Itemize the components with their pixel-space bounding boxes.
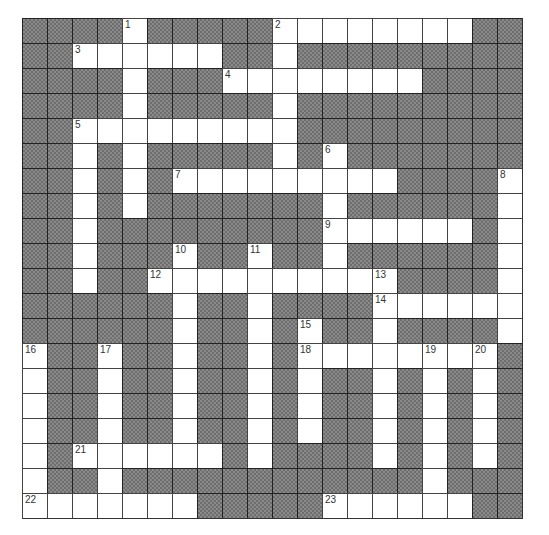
crossword-cell[interactable] — [322, 193, 347, 218]
crossword-cell[interactable] — [322, 18, 347, 43]
crossword-cell[interactable] — [122, 493, 147, 518]
crossword-cell[interactable] — [372, 368, 397, 393]
crossword-cell[interactable] — [147, 43, 172, 68]
crossword-cell[interactable] — [347, 168, 372, 193]
crossword-cell[interactable] — [172, 118, 197, 143]
crossword-cell[interactable] — [272, 93, 297, 118]
crossword-cell[interactable] — [247, 393, 272, 418]
crossword-cell[interactable]: 3 — [72, 43, 97, 68]
crossword-cell[interactable] — [472, 443, 497, 468]
crossword-cell[interactable] — [22, 468, 47, 493]
crossword-cell[interactable] — [147, 493, 172, 518]
crossword-cell[interactable] — [347, 493, 372, 518]
crossword-cell[interactable] — [147, 118, 172, 143]
crossword-cell[interactable] — [72, 168, 97, 193]
crossword-cell[interactable] — [97, 368, 122, 393]
crossword-cell[interactable] — [397, 68, 422, 93]
crossword-cell[interactable] — [422, 443, 447, 468]
crossword-cell[interactable]: 10 — [172, 243, 197, 268]
crossword-cell[interactable] — [297, 393, 322, 418]
crossword-cell[interactable] — [347, 218, 372, 243]
crossword-cell[interactable] — [397, 493, 422, 518]
crossword-cell[interactable]: 7 — [172, 168, 197, 193]
crossword-cell[interactable] — [47, 493, 72, 518]
crossword-cell[interactable] — [247, 293, 272, 318]
crossword-cell[interactable] — [172, 43, 197, 68]
crossword-cell[interactable] — [447, 293, 472, 318]
crossword-cell[interactable] — [497, 243, 522, 268]
crossword-cell[interactable] — [372, 318, 397, 343]
crossword-cell[interactable] — [472, 368, 497, 393]
crossword-cell[interactable] — [347, 343, 372, 368]
crossword-cell[interactable] — [22, 418, 47, 443]
crossword-cell[interactable] — [447, 218, 472, 243]
crossword-cell[interactable]: 14 — [372, 293, 397, 318]
crossword-cell[interactable] — [272, 168, 297, 193]
crossword-cell[interactable] — [322, 68, 347, 93]
crossword-cell[interactable] — [172, 493, 197, 518]
crossword-cell[interactable] — [372, 343, 397, 368]
crossword-cell[interactable] — [97, 443, 122, 468]
crossword-cell[interactable] — [372, 493, 397, 518]
crossword-cell[interactable] — [97, 118, 122, 143]
crossword-cell[interactable] — [297, 268, 322, 293]
crossword-cell[interactable] — [97, 493, 122, 518]
crossword-cell[interactable] — [172, 443, 197, 468]
crossword-cell[interactable]: 9 — [322, 218, 347, 243]
crossword-cell[interactable] — [172, 418, 197, 443]
crossword-cell[interactable] — [122, 93, 147, 118]
crossword-cell[interactable] — [247, 418, 272, 443]
crossword-cell[interactable] — [422, 418, 447, 443]
crossword-cell[interactable] — [197, 268, 222, 293]
crossword-cell[interactable] — [297, 368, 322, 393]
crossword-cell[interactable] — [322, 168, 347, 193]
crossword-cell[interactable] — [172, 393, 197, 418]
crossword-cell[interactable] — [372, 218, 397, 243]
crossword-cell[interactable] — [72, 218, 97, 243]
crossword-cell[interactable] — [122, 43, 147, 68]
crossword-cell[interactable] — [172, 343, 197, 368]
crossword-cell[interactable] — [97, 393, 122, 418]
crossword-cell[interactable] — [172, 268, 197, 293]
crossword-cell[interactable] — [197, 168, 222, 193]
crossword-cell[interactable] — [497, 293, 522, 318]
crossword-cell[interactable]: 2 — [272, 18, 297, 43]
crossword-cell[interactable] — [97, 418, 122, 443]
crossword-cell[interactable] — [122, 193, 147, 218]
crossword-cell[interactable] — [122, 118, 147, 143]
crossword-cell[interactable] — [172, 368, 197, 393]
crossword-cell[interactable] — [372, 393, 397, 418]
crossword-cell[interactable] — [472, 418, 497, 443]
crossword-cell[interactable] — [122, 443, 147, 468]
crossword-cell[interactable] — [372, 18, 397, 43]
crossword-cell[interactable]: 18 — [297, 343, 322, 368]
crossword-cell[interactable] — [297, 168, 322, 193]
crossword-cell[interactable] — [247, 343, 272, 368]
crossword-cell[interactable]: 1 — [122, 18, 147, 43]
crossword-cell[interactable] — [72, 143, 97, 168]
crossword-cell[interactable] — [222, 268, 247, 293]
crossword-cell[interactable] — [372, 168, 397, 193]
crossword-cell[interactable]: 13 — [372, 268, 397, 293]
crossword-cell[interactable] — [422, 393, 447, 418]
crossword-cell[interactable] — [72, 243, 97, 268]
crossword-cell[interactable] — [22, 393, 47, 418]
crossword-cell[interactable] — [322, 268, 347, 293]
crossword-cell[interactable] — [197, 443, 222, 468]
crossword-cell[interactable] — [397, 18, 422, 43]
crossword-cell[interactable] — [297, 418, 322, 443]
crossword-cell[interactable] — [472, 293, 497, 318]
crossword-cell[interactable]: 22 — [22, 493, 47, 518]
crossword-cell[interactable] — [372, 68, 397, 93]
crossword-cell[interactable]: 16 — [22, 343, 47, 368]
crossword-cell[interactable]: 4 — [222, 68, 247, 93]
crossword-cell[interactable]: 19 — [422, 343, 447, 368]
crossword-cell[interactable] — [347, 18, 372, 43]
crossword-cell[interactable] — [247, 68, 272, 93]
crossword-cell[interactable] — [372, 418, 397, 443]
crossword-cell[interactable] — [397, 218, 422, 243]
crossword-cell[interactable] — [272, 143, 297, 168]
crossword-cell[interactable] — [197, 118, 222, 143]
crossword-cell[interactable] — [347, 68, 372, 93]
crossword-cell[interactable] — [222, 168, 247, 193]
